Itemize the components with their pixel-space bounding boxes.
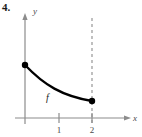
function-curve bbox=[25, 65, 92, 101]
right-endpoint-dot bbox=[89, 98, 95, 104]
graph-plot: y x 1 2 f bbox=[0, 0, 142, 137]
figure-container: 4. y x 1 2 f bbox=[0, 0, 142, 137]
x-axis-label: x bbox=[132, 113, 137, 123]
x-tick-label-1: 1 bbox=[57, 125, 62, 135]
curve-label-f: f bbox=[46, 92, 50, 103]
x-tick-label-2: 2 bbox=[90, 125, 95, 135]
left-endpoint-dot bbox=[22, 62, 28, 68]
y-axis-label: y bbox=[32, 6, 37, 16]
x-axis-arrowhead bbox=[124, 115, 131, 120]
y-axis-arrowhead bbox=[22, 13, 27, 20]
